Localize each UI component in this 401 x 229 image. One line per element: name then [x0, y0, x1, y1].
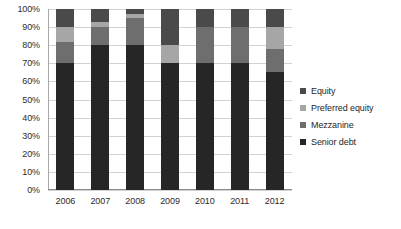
bar-group-2012[interactable]	[266, 9, 284, 190]
bar-segment-preferred-equity[interactable]	[266, 27, 284, 49]
bar-stack	[231, 9, 249, 190]
legend-swatch-icon	[300, 88, 306, 94]
bar-stack	[56, 9, 74, 190]
bar-segment-senior-debt[interactable]	[231, 63, 249, 190]
bar-segment-equity[interactable]	[126, 9, 144, 14]
y-tick-label: 80%	[22, 41, 40, 50]
bar-group-2007[interactable]	[91, 9, 109, 190]
stacked-bar-chart: 0%10%20%30%40%50%60%70%80%90%100% 200620…	[0, 0, 401, 229]
bar-series-layer	[48, 9, 292, 190]
bar-group-2009[interactable]	[161, 9, 179, 190]
gridline-0pct	[48, 190, 292, 191]
legend-swatch-icon	[300, 122, 306, 128]
x-tick-label-2006: 2006	[56, 196, 76, 206]
x-tick-label-2010: 2010	[195, 196, 215, 206]
legend-swatch-icon	[300, 105, 306, 111]
bar-group-2011[interactable]	[231, 9, 249, 190]
x-tick-label-2012: 2012	[265, 196, 285, 206]
bar-segment-senior-debt[interactable]	[126, 45, 144, 190]
bar-segment-senior-debt[interactable]	[196, 63, 214, 190]
bar-segment-preferred-equity[interactable]	[56, 27, 74, 41]
bar-stack	[91, 9, 109, 190]
x-tick-label-2009: 2009	[160, 196, 180, 206]
legend-item-senior-debt[interactable]: Senior debt	[300, 133, 398, 150]
legend-item-preferred-equity[interactable]: Preferred equity	[300, 99, 398, 116]
y-tick-label: 70%	[22, 59, 40, 68]
bar-segment-equity[interactable]	[91, 9, 109, 22]
y-tick-label: 10%	[22, 167, 40, 176]
legend-label: Mezzanine	[311, 120, 354, 130]
bar-segment-mezzanine[interactable]	[91, 27, 109, 45]
bar-stack	[126, 9, 144, 190]
bar-stack	[266, 9, 284, 190]
bar-segment-equity[interactable]	[231, 9, 249, 27]
x-tick-label-2007: 2007	[90, 196, 110, 206]
bar-stack	[196, 9, 214, 190]
y-tick-label: 50%	[22, 95, 40, 104]
y-tick-label: 40%	[22, 113, 40, 122]
y-tick-label: 30%	[22, 131, 40, 140]
y-tick-label: 90%	[22, 23, 40, 32]
x-tick-label-2011: 2011	[230, 196, 249, 206]
bar-segment-senior-debt[interactable]	[161, 63, 179, 190]
bar-segment-equity[interactable]	[266, 9, 284, 27]
bar-segment-senior-debt[interactable]	[56, 63, 74, 190]
bar-segment-equity[interactable]	[161, 9, 179, 45]
bar-segment-mezzanine[interactable]	[126, 18, 144, 45]
x-tick-label-2008: 2008	[125, 196, 145, 206]
legend-label: Preferred equity	[311, 103, 373, 113]
bar-group-2006[interactable]	[56, 9, 74, 190]
bar-segment-senior-debt[interactable]	[91, 45, 109, 190]
bar-group-2008[interactable]	[126, 9, 144, 190]
y-tick-label: 100%	[17, 5, 40, 14]
x-axis-tick-labels: 2006200720082009201020112012	[48, 192, 292, 212]
bar-segment-mezzanine[interactable]	[266, 49, 284, 73]
bar-segment-senior-debt[interactable]	[266, 72, 284, 190]
bar-segment-mezzanine[interactable]	[56, 42, 74, 64]
bar-segment-preferred-equity[interactable]	[91, 22, 109, 27]
legend-swatch-icon	[300, 139, 306, 145]
legend-label: Senior debt	[311, 137, 356, 147]
legend-label: Equity	[311, 86, 335, 96]
y-tick-label: 0%	[27, 186, 40, 195]
bar-segment-preferred-equity[interactable]	[126, 14, 144, 18]
bar-stack	[161, 9, 179, 190]
bar-segment-preferred-equity[interactable]	[161, 45, 179, 63]
bar-segment-mezzanine[interactable]	[196, 27, 214, 63]
bar-segment-equity[interactable]	[56, 9, 74, 27]
bar-segment-mezzanine[interactable]	[231, 27, 249, 63]
bar-group-2010[interactable]	[196, 9, 214, 190]
y-tick-label: 60%	[22, 77, 40, 86]
legend-item-mezzanine[interactable]: Mezzanine	[300, 116, 398, 133]
y-axis-tick-labels: 0%10%20%30%40%50%60%70%80%90%100%	[0, 0, 46, 199]
plot-area	[48, 9, 292, 190]
legend-item-equity[interactable]: Equity	[300, 82, 398, 99]
y-tick-label: 20%	[22, 149, 40, 158]
chart-legend: EquityPreferred equityMezzanineSenior de…	[300, 82, 398, 150]
bar-segment-equity[interactable]	[196, 9, 214, 27]
